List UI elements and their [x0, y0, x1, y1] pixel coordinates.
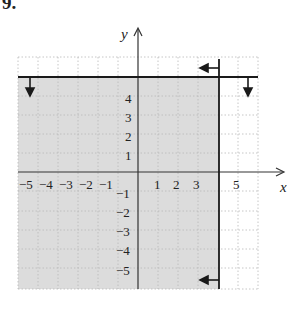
y-axis-label: y: [119, 26, 128, 42]
x-tick: −3: [59, 177, 73, 192]
x-tick: 1: [154, 177, 161, 192]
y-tick: 3: [125, 110, 132, 125]
x-tick: −4: [39, 177, 53, 192]
y-tick: −4: [116, 243, 130, 258]
graph: y x −5 −4 −3 −2 −1 1 2 3 5 4 3 2 1 −1 −2…: [0, 0, 287, 310]
y-tick: −2: [116, 205, 130, 220]
y-tick: 1: [125, 148, 132, 163]
left-arrow-icon: [200, 64, 219, 72]
x-tick: −1: [99, 177, 113, 192]
y-tick: −5: [116, 263, 130, 278]
x-tick: −2: [79, 177, 93, 192]
down-arrow-icon: [244, 77, 252, 96]
y-tick: 2: [125, 129, 132, 144]
x-tick: −5: [19, 177, 33, 192]
y-tick: −1: [116, 186, 130, 201]
x-tick: 3: [193, 177, 200, 192]
x-tick: 5: [233, 177, 240, 192]
y-tick: 4: [125, 91, 132, 106]
y-tick: −3: [116, 224, 130, 239]
x-tick: 2: [173, 177, 180, 192]
x-axis-label: x: [279, 179, 287, 195]
